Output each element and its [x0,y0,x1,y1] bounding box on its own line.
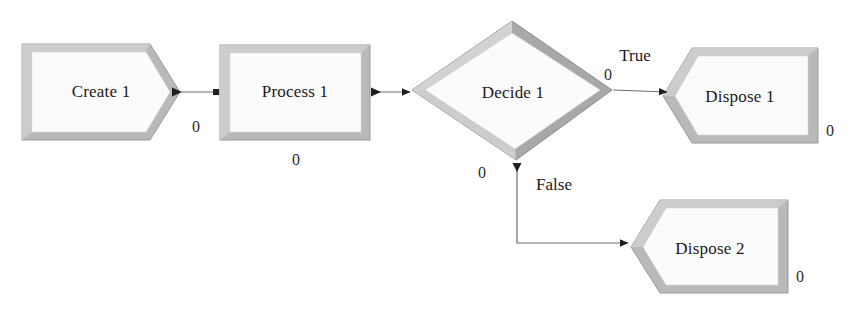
counter-decide-1-true: 0 [604,66,612,84]
process-to-decide-tail-arrow [371,88,381,97]
node-label-process-1: Process 1 [262,82,329,102]
counter-create-1: 0 [192,118,200,136]
true-branch-line [613,90,667,92]
false-branch-head-arrow [513,163,522,172]
node-label-dispose-2: Dispose 2 [675,239,744,259]
counter-dispose-2: 0 [796,268,804,286]
counter-decide-1-false: 0 [478,164,486,182]
counter-dispose-1: 0 [826,122,834,140]
connector-process-to-decide[interactable] [371,88,410,97]
false-branch-line [517,163,628,243]
flowchart-shapes-layer [0,0,856,312]
branch-label-true: True [619,46,651,66]
flowchart-canvas: Create 1 Process 1 Decide 1 Dispose 1 Di… [0,0,856,312]
node-label-dispose-1: Dispose 1 [705,87,774,107]
node-label-create-1: Create 1 [72,82,131,102]
branch-label-false: False [536,175,572,195]
counter-process-1: 0 [292,151,300,169]
connector-decide-true-to-dispose-1[interactable] [613,90,667,92]
node-label-decide-1: Decide 1 [482,83,545,103]
